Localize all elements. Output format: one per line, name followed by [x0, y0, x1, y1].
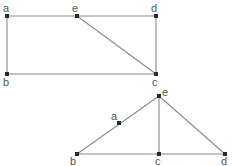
edge-e-c [77, 16, 156, 74]
node-label-e: e [72, 2, 78, 14]
diagram-top-rectangle: aedbc [3, 2, 158, 88]
node-e [75, 14, 79, 18]
node-label-a: a [111, 110, 118, 122]
node-label-a: a [3, 2, 10, 14]
node-label-b: b [3, 76, 9, 88]
node-label-c: c [155, 155, 161, 166]
node-label-c: c [152, 76, 158, 88]
node-e [157, 94, 161, 98]
node-label-b: b [70, 155, 76, 166]
node-label-d: d [221, 155, 227, 166]
node-d [154, 14, 158, 18]
graph-diagram-canvas: aedbc eabcd [0, 0, 232, 166]
node-a [5, 14, 9, 18]
edge-e-d [159, 96, 225, 154]
node-label-d: d [151, 2, 157, 14]
node-label-e: e [162, 86, 168, 98]
node-a [117, 121, 121, 125]
diagram-bottom-triangle: eabcd [70, 86, 227, 166]
